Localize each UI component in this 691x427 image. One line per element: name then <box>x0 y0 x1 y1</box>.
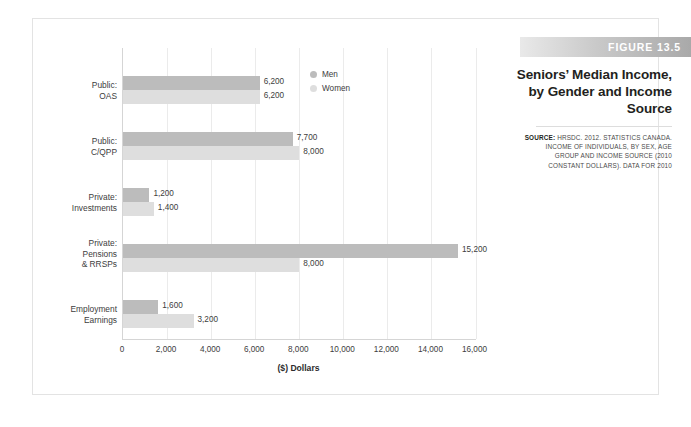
legend-item-women[interactable]: Women <box>310 84 350 93</box>
category-label-line2: Investments <box>31 203 117 214</box>
x-tick-6000: 6,000 <box>244 345 265 354</box>
figure-banner: FIGURE 13.5 <box>520 37 691 57</box>
bar-row-men: 7,700 <box>123 132 475 146</box>
category-label-line1: Employment <box>31 304 117 315</box>
category-label-line1: Public: <box>31 136 117 147</box>
caption-divider <box>536 126 672 127</box>
category-label-line2: Pensions <box>31 249 117 260</box>
chart-container: Public: OAS 6,200 6,200 Public: C/QPP 7,… <box>32 18 502 395</box>
category-label-line2: C/QPP <box>31 147 117 158</box>
bar-group-public-oas: Public: OAS 6,200 6,200 <box>123 76 475 104</box>
bar-row-men: 1,200 <box>123 188 475 202</box>
legend-dot-men-icon <box>310 71 317 78</box>
bar-men-private-investments[interactable] <box>123 188 149 202</box>
bar-men-employment-earnings[interactable] <box>123 300 158 314</box>
x-tick-10000: 10,000 <box>330 345 355 354</box>
figure-title: Seniors’ Median Income, by Gender and In… <box>510 66 672 117</box>
bar-men-public-cqpp[interactable] <box>123 132 293 146</box>
category-label-line1: Private: <box>31 238 117 249</box>
legend-item-men[interactable]: Men <box>310 70 350 79</box>
category-label-private-pensions: Private: Pensions & RRSPs <box>31 238 117 270</box>
x-tick-0: 0 <box>120 345 125 354</box>
legend-label-men: Men <box>322 70 338 79</box>
category-label-line2: OAS <box>31 91 117 102</box>
category-label-public-cqpp: Public: C/QPP <box>31 136 117 157</box>
bar-row-women: 3,200 <box>123 314 475 328</box>
x-tick-14000: 14,000 <box>418 345 443 354</box>
bar-row-men: 6,200 <box>123 76 475 90</box>
bar-row-women: 8,000 <box>123 258 475 272</box>
x-tick-16000: 16,000 <box>462 345 487 354</box>
bar-women-public-oas[interactable] <box>123 90 260 104</box>
bar-women-private-pensions[interactable] <box>123 258 299 272</box>
bar-group-employment-earnings: Employment Earnings 1,600 3,200 <box>123 300 475 328</box>
category-label-public-oas: Public: OAS <box>31 80 117 101</box>
bar-row-women: 6,200 <box>123 90 475 104</box>
bar-row-women: 8,000 <box>123 146 475 160</box>
bar-value-men-employment-earnings: 1,600 <box>158 301 183 310</box>
category-label-employment-earnings: Employment Earnings <box>31 304 117 325</box>
gridline-16000 <box>476 48 477 339</box>
category-label-line2: Earnings <box>31 315 117 326</box>
figure-source: SOURCE: HRSDC. 2012. STATISTICS CANADA. … <box>520 133 672 170</box>
x-tick-8000: 8,000 <box>288 345 309 354</box>
bar-men-private-pensions[interactable] <box>123 244 458 258</box>
bar-value-men-private-investments: 1,200 <box>149 189 174 198</box>
bar-value-women-private-investments: 1,400 <box>154 203 179 212</box>
x-tick-12000: 12,000 <box>374 345 399 354</box>
bar-women-private-investments[interactable] <box>123 202 154 216</box>
category-label-line1: Public: <box>31 80 117 91</box>
x-tick-4000: 4,000 <box>200 345 221 354</box>
bar-men-public-oas[interactable] <box>123 76 260 90</box>
category-label-line1: Private: <box>31 192 117 203</box>
bar-group-private-investments: Private: Investments 1,200 1,400 <box>123 188 475 216</box>
legend-dot-women-icon <box>310 85 317 92</box>
category-label-private-investments: Private: Investments <box>31 192 117 213</box>
bar-row-women: 1,400 <box>123 202 475 216</box>
bar-value-women-private-pensions: 8,000 <box>299 259 324 268</box>
chart-legend: Men Women <box>310 70 350 98</box>
x-axis-line <box>122 339 476 340</box>
figure-source-text: HRSDC. 2012. STATISTICS CANADA. INCOME O… <box>546 134 672 169</box>
bar-value-women-public-oas: 6,200 <box>260 91 285 100</box>
bar-value-women-employment-earnings: 3,200 <box>194 315 219 324</box>
category-label-line3: & RRSPs <box>31 259 117 270</box>
caption-panel: FIGURE 13.5 Seniors’ Median Income, by G… <box>502 18 691 188</box>
figure-source-prefix: SOURCE: <box>525 134 556 141</box>
bar-group-public-cqpp: Public: C/QPP 7,700 8,000 <box>123 132 475 160</box>
x-tick-2000: 2,000 <box>156 345 177 354</box>
bar-value-men-public-oas: 6,200 <box>260 77 285 86</box>
legend-label-women: Women <box>322 84 350 93</box>
plot-area: Public: OAS 6,200 6,200 Public: C/QPP 7,… <box>122 48 475 339</box>
bar-row-men: 1,600 <box>123 300 475 314</box>
bar-group-private-pensions: Private: Pensions & RRSPs 15,200 8,000 <box>123 244 475 272</box>
figure-number-label: FIGURE 13.5 <box>608 41 681 53</box>
bar-value-men-private-pensions: 15,200 <box>458 245 487 254</box>
x-axis-title: ($) Dollars <box>122 363 475 373</box>
bar-women-employment-earnings[interactable] <box>123 314 194 328</box>
bar-value-women-public-cqpp: 8,000 <box>299 147 324 156</box>
bar-row-men: 15,200 <box>123 244 475 258</box>
bar-women-public-cqpp[interactable] <box>123 146 299 160</box>
bar-value-men-public-cqpp: 7,700 <box>293 133 318 142</box>
